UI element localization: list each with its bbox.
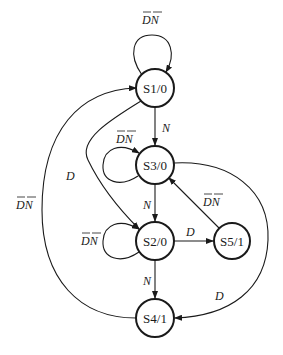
label-s1-self: DN xyxy=(141,12,162,27)
edge-s4-s1 xyxy=(42,88,136,318)
svg-text:S5/1: S5/1 xyxy=(220,234,244,249)
edge-s3-self xyxy=(103,147,139,182)
label-s3-self: DN xyxy=(115,131,136,146)
state-s5: S5/1 xyxy=(214,223,250,259)
svg-text:DN: DN xyxy=(115,132,134,146)
state-diagram: S1/0 S3/0 S2/0 S5/1 S4/1 DN N D DN N D D… xyxy=(0,0,283,355)
label-s2-s4: N xyxy=(142,274,152,288)
label-s2-s5: D xyxy=(185,225,195,239)
state-s1: S1/0 xyxy=(136,69,174,107)
state-s2: S2/0 xyxy=(136,222,174,260)
label-s5-s3: DN xyxy=(202,194,223,209)
svg-text:S4/1: S4/1 xyxy=(143,311,167,326)
label-s1-s3: N xyxy=(161,121,171,135)
svg-text:S3/0: S3/0 xyxy=(143,158,167,173)
svg-text:DN: DN xyxy=(80,234,99,248)
label-s1-s2: D xyxy=(65,169,75,183)
svg-text:S2/0: S2/0 xyxy=(143,234,167,249)
label-s4-s1: DN xyxy=(15,197,36,212)
edge-s1-s2 xyxy=(86,101,141,229)
svg-text:DN: DN xyxy=(141,13,160,27)
label-s2-self: DN xyxy=(80,233,101,248)
state-s4: S4/1 xyxy=(136,299,174,337)
state-s3: S3/0 xyxy=(136,146,174,184)
svg-text:DN: DN xyxy=(15,198,34,212)
label-s3-s4: D xyxy=(214,289,224,303)
label-s3-s2: N xyxy=(142,198,152,212)
svg-text:S1/0: S1/0 xyxy=(143,81,167,96)
edge-s2-self xyxy=(103,223,139,258)
svg-text:DN: DN xyxy=(202,195,221,209)
